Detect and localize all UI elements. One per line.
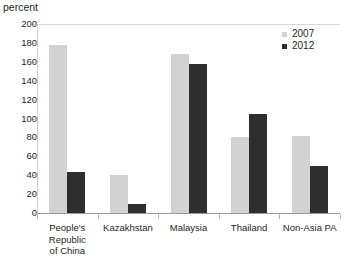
y-axis-tick-mark (33, 119, 38, 120)
y-axis-tick-mark (33, 100, 38, 101)
bar-2012-4 (310, 166, 328, 213)
x-axis-category-label: Non-Asia PA (279, 222, 340, 234)
legend-item-2012: 2012 (282, 40, 338, 51)
legend-label-2012: 2012 (292, 40, 314, 51)
plot-area (37, 24, 340, 213)
legend-item-2007: 2007 (282, 28, 338, 39)
x-axis-tick-mark (37, 214, 38, 219)
y-axis-tick-label: 140 (0, 76, 37, 86)
y-axis-tick-mark (33, 24, 38, 25)
y-axis-tick-label: 180 (0, 38, 37, 48)
x-axis-tick-mark (279, 214, 280, 219)
x-axis-category-label: People'sRepublicof China (37, 222, 98, 257)
y-axis-tick-label: 120 (0, 95, 37, 105)
x-axis-tick-mark (219, 214, 220, 219)
y-axis-tick-label: 60 (0, 151, 37, 161)
x-axis-tick-mark (158, 214, 159, 219)
y-axis-tick-label: 40 (0, 170, 37, 180)
y-axis-tick-label: 0 (0, 208, 37, 218)
y-axis-tick-mark (33, 81, 38, 82)
y-axis-tick-label: 80 (0, 132, 37, 142)
bar-chart: percent 020406080100120140160180200 Peop… (0, 0, 344, 259)
y-axis-tick-mark (33, 175, 38, 176)
y-axis-tick-mark (33, 137, 38, 138)
y-axis-tick-mark (33, 43, 38, 44)
y-axis-tick-label: 100 (0, 114, 37, 124)
y-axis-tick-label: 160 (0, 57, 37, 67)
x-axis-category-label: Malaysia (158, 222, 219, 234)
x-axis-tick-mark (98, 214, 99, 219)
bar-2012-3 (249, 114, 267, 213)
legend-swatch-2012-icon (282, 44, 287, 49)
y-axis-tick-label: 20 (0, 189, 37, 199)
x-axis-line (37, 213, 340, 214)
x-axis-category-label: Thailand (219, 222, 280, 234)
y-axis-title: percent (3, 1, 38, 13)
y-axis-tick-mark (33, 194, 38, 195)
legend-label-2007: 2007 (292, 28, 314, 39)
y-axis-tick-mark (33, 62, 38, 63)
bar-2007-3 (231, 137, 249, 213)
bar-2012-2 (189, 64, 207, 213)
y-axis-tick-mark (33, 156, 38, 157)
bar-2007-0 (49, 45, 67, 213)
bar-2012-0 (67, 172, 85, 213)
x-axis-category-label: Kazakhstan (98, 222, 159, 234)
x-axis-tick-mark (340, 214, 341, 219)
legend: 2007 2012 (282, 28, 338, 52)
legend-swatch-2007-icon (282, 32, 287, 37)
bar-2007-2 (171, 54, 189, 213)
bar-2007-1 (110, 175, 128, 213)
bar-2012-1 (128, 204, 146, 213)
y-axis-tick-label: 200 (0, 19, 37, 29)
bar-2007-4 (292, 136, 310, 213)
plot-top-gridline (37, 24, 340, 25)
